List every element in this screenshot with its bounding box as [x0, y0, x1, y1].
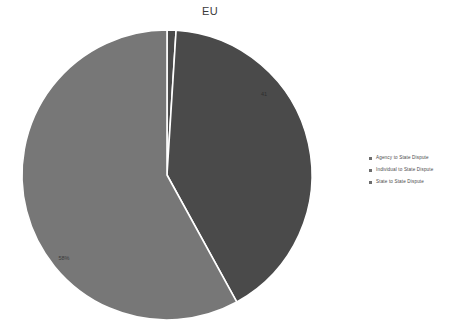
pie-chart-area: 4158% — [0, 0, 340, 333]
pie-slice-group — [22, 30, 312, 320]
legend-marker-icon — [369, 181, 372, 184]
legend-item-label: Individual to State Dispute — [376, 167, 433, 172]
chart-legend: Agency to State DisputeIndividual to Sta… — [369, 155, 461, 191]
pie-chart-svg: 4158% — [0, 0, 340, 333]
legend-marker-icon — [369, 169, 372, 172]
chart-root: EU 4158% Agency to State DisputeIndividu… — [0, 0, 463, 333]
legend-item[interactable]: State to State Dispute — [369, 179, 461, 184]
legend-item-label: State to State Dispute — [376, 179, 424, 184]
legend-marker-icon — [369, 157, 372, 160]
pie-slice-label: 41 — [261, 91, 267, 97]
pie-slice-label: 58% — [58, 255, 69, 261]
legend-item[interactable]: Agency to State Dispute — [369, 155, 461, 160]
legend-item-label: Agency to State Dispute — [376, 155, 429, 160]
legend-item[interactable]: Individual to State Dispute — [369, 167, 461, 172]
